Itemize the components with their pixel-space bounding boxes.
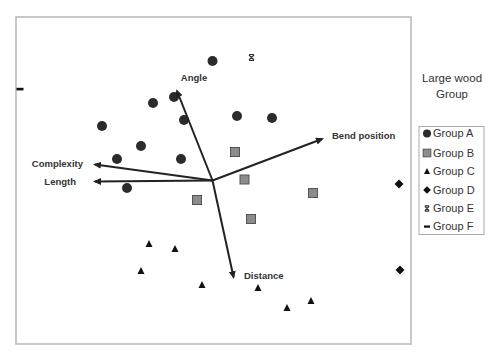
legend-label: Group C xyxy=(433,165,475,177)
vector-bend-position-label: Bend position xyxy=(332,130,396,141)
square-point-icon xyxy=(231,148,240,157)
square-point-icon xyxy=(240,175,249,184)
dash-legend-icon xyxy=(424,225,430,227)
series-group-f xyxy=(17,88,24,91)
vector-angle-label: Angle xyxy=(181,72,207,83)
circle-point-icon xyxy=(148,98,158,108)
square-point-icon xyxy=(309,189,318,198)
circle-point-icon xyxy=(136,141,146,151)
square-point-icon xyxy=(193,196,202,205)
square-legend-icon xyxy=(423,149,431,157)
circle-point-icon xyxy=(208,56,218,66)
legend-item-group-e: Group E xyxy=(425,202,474,214)
circle-point-icon xyxy=(176,154,186,164)
legend-label: Group F xyxy=(433,220,474,232)
vector-length-label: Length xyxy=(44,176,76,187)
circle-point-icon xyxy=(232,111,242,121)
vector-distance-label: Distance xyxy=(244,270,284,281)
legend-label: Group D xyxy=(433,184,475,196)
legend-label: Group B xyxy=(433,147,474,159)
vector-length-arrow xyxy=(95,181,213,182)
dash-point-icon xyxy=(17,88,24,91)
legend-box xyxy=(419,127,484,235)
circle-point-icon xyxy=(122,183,132,193)
legend: Large wood Group Group AGroup BGroup CGr… xyxy=(419,72,484,235)
circle-point-icon xyxy=(112,154,122,164)
vector-complexity-label: Complexity xyxy=(32,158,84,169)
legend-label: Group A xyxy=(433,127,474,139)
circle-legend-icon xyxy=(423,130,431,138)
legend-title-line-2: Group xyxy=(436,88,468,100)
biplot-chart: AngleBend positionComplexityLengthDistan… xyxy=(0,0,489,360)
legend-title-line-1: Large wood xyxy=(422,72,482,84)
circle-point-icon xyxy=(267,113,277,123)
circle-point-icon xyxy=(97,121,107,131)
square-point-icon xyxy=(247,215,256,224)
legend-label: Group E xyxy=(433,202,474,214)
